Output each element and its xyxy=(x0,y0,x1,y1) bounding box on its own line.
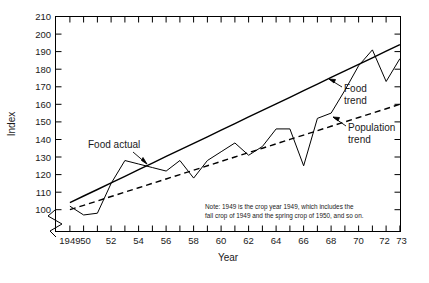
x-tick-label: 54 xyxy=(133,235,144,246)
y-axis-ticks xyxy=(56,17,62,210)
y-tick-label: 110 xyxy=(36,187,51,198)
x-axis-ticks-top xyxy=(70,17,386,23)
x-tick-label: 60 xyxy=(216,235,227,246)
annotation-food-trend: Food trend xyxy=(329,79,367,106)
x-tick-label: 68 xyxy=(326,235,337,246)
y-tick-label: 170 xyxy=(35,81,51,92)
x-tick-label: 56 xyxy=(161,235,172,246)
y-tick-label: 200 xyxy=(35,29,51,40)
x-tick-label: 70 xyxy=(353,235,364,246)
y-tick-label: 100 xyxy=(35,204,51,215)
x-tick-label: 72 xyxy=(379,235,390,246)
y-axis-title: Index xyxy=(6,112,17,136)
line-chart: 210 200 190 180 170 160 150 140 130 120 … xyxy=(0,0,429,283)
annotation-food-actual-arrowhead xyxy=(142,158,148,165)
y-tick-label: 210 xyxy=(35,11,51,22)
annotation-population-trend-label-line1: Population xyxy=(348,122,395,133)
x-tick-label: 62 xyxy=(243,235,254,246)
x-tick-label: 50 xyxy=(80,235,91,246)
y-tick-label: 180 xyxy=(35,64,51,75)
annotation-population-trend: Population trend xyxy=(333,117,395,145)
x-tick-label: 58 xyxy=(188,235,199,246)
x-tick-label: 52 xyxy=(106,235,117,246)
annotation-food-trend-label-line2: trend xyxy=(344,95,367,106)
y-tick-label: 160 xyxy=(35,99,51,110)
annotation-population-trend-arrowhead xyxy=(333,117,340,121)
x-tick-label: 1949 xyxy=(59,235,80,246)
x-axis-tick-labels: 1949 50 52 54 56 58 60 62 64 66 68 70 72… xyxy=(59,235,406,246)
y-tick-label: 140 xyxy=(35,134,51,145)
x-tick-label: 64 xyxy=(271,235,282,246)
chart-note-line1: Note: 1949 is the crop year 1949, which … xyxy=(205,203,354,211)
chart-note-line2: fall crop of 1949 and the spring crop of… xyxy=(205,212,364,220)
x-tick-label: 73 xyxy=(396,235,407,246)
x-axis-title: Year xyxy=(218,252,239,263)
y-tick-label: 150 xyxy=(35,116,51,127)
y-tick-label: 120 xyxy=(35,169,51,180)
annotation-food-actual-label: Food actual xyxy=(88,139,140,150)
series-population-trend xyxy=(70,104,400,209)
annotation-food-trend-label-line1: Food xyxy=(344,83,367,94)
annotation-food-actual: Food actual xyxy=(88,139,147,164)
annotation-food-trend-arrowhead xyxy=(329,79,336,83)
chart-container: 210 200 190 180 170 160 150 140 130 120 … xyxy=(0,0,429,283)
x-tick-label: 66 xyxy=(298,235,309,246)
chart-note: Note: 1949 is the crop year 1949, which … xyxy=(205,203,364,220)
x-axis-ticks xyxy=(70,226,400,232)
y-axis-tick-labels: 210 200 190 180 170 160 150 140 130 120 … xyxy=(35,11,51,215)
y-tick-label: 130 xyxy=(35,152,51,163)
y-tick-label: 190 xyxy=(35,46,51,57)
annotation-population-trend-label-line2: trend xyxy=(348,134,371,145)
